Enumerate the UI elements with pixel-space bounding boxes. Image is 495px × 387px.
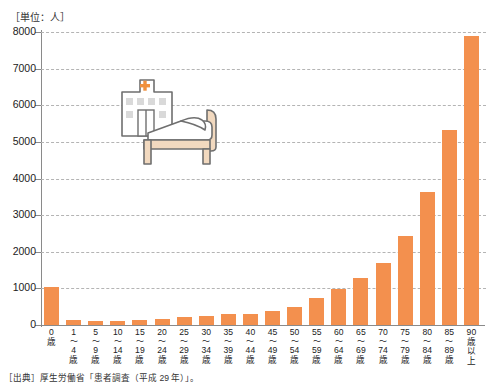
y-tick-label-3000: 3000 [2,209,36,220]
y-tick-label-8000: 8000 [2,26,36,37]
bar-85〜89歳 [442,130,457,325]
x-label-30〜34歳: 30〜34歳 [195,328,217,365]
bar-10〜14歳 [110,321,125,325]
bar-40〜44歳 [243,314,258,325]
bar-25〜29歳 [177,317,192,325]
y-axis-labels: 010002000300040005000600070008000 [0,0,36,387]
x-label-45〜49歳: 45〜49歳 [262,328,284,365]
x-label-60〜64歳: 60〜64歳 [328,328,350,365]
bar-35〜39歳 [221,314,236,325]
bar-90歳以上 [464,36,479,325]
y-tick-label-6000: 6000 [2,99,36,110]
bar-30〜34歳 [199,316,214,325]
bar-15〜19歳 [132,320,147,325]
x-label-20〜24歳: 20〜24歳 [151,328,173,365]
y-tick-label-0: 0 [2,319,36,330]
x-label-10〜14歳: 10〜14歳 [107,328,129,365]
chart-page: ［単位：人］ 010002000300040005000600070008000 [0,0,495,387]
bar-65〜69歳 [353,278,368,325]
bar-5〜9歳 [88,321,103,325]
bar-20〜24歳 [155,319,170,325]
bar-45〜49歳 [265,311,280,325]
cropped-title-text [22,0,422,6]
bar-80〜84歳 [420,192,435,325]
bar-75〜79歳 [398,236,413,325]
y-tick-label-1000: 1000 [2,282,36,293]
bar-55〜59歳 [309,298,324,325]
x-label-1〜4歳: 1〜4歳 [63,328,85,365]
x-label-40〜44歳: 40〜44歳 [239,328,261,365]
y-tick-label-2000: 2000 [2,246,36,257]
x-label-80〜84歳: 80〜84歳 [416,328,438,365]
x-label-35〜39歳: 35〜39歳 [217,328,239,365]
bar-60〜64歳 [331,289,346,325]
bar-50〜54歳 [287,307,302,325]
x-label-85〜89歳: 85〜89歳 [438,328,460,365]
x-label-50〜54歳: 50〜54歳 [284,328,306,365]
x-axis-line [41,325,485,326]
y-tick-label-7000: 7000 [2,63,36,74]
bar-1〜4歳 [66,320,81,325]
x-label-55〜59歳: 55〜59歳 [306,328,328,365]
bar-70〜74歳 [376,263,391,325]
x-label-5〜9歳: 5〜9歳 [85,328,107,365]
hospital-illustration [104,62,230,167]
bar-0歳 [44,287,59,325]
x-label-0歳: 0歳 [41,328,63,347]
x-label-75〜79歳: 75〜79歳 [394,328,416,365]
y-tick-label-5000: 5000 [2,136,36,147]
x-label-65〜69歳: 65〜69歳 [350,328,372,365]
y-tick-label-4000: 4000 [2,173,36,184]
x-label-90歳以上: 90歳以上 [460,328,482,366]
x-label-70〜74歳: 70〜74歳 [372,328,394,365]
source-note: ［出典］厚生労働省「患者調査（平成 29 年）」。 [4,371,199,383]
x-label-15〜19歳: 15〜19歳 [129,328,151,365]
x-label-25〜29歳: 25〜29歳 [173,328,195,365]
